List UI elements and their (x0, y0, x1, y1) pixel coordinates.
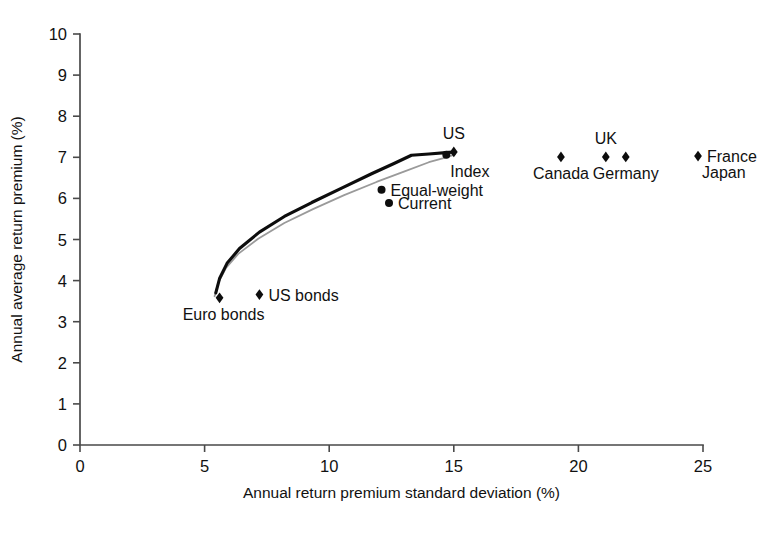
x-tick-label: 5 (200, 457, 209, 475)
data-point-marker-diamond (557, 151, 565, 162)
chart-figure: 0123456789100510152025Annual return prem… (0, 0, 780, 536)
y-tick-label: 6 (58, 189, 67, 207)
x-tick-label: 20 (569, 457, 587, 475)
y-tick-label: 5 (58, 231, 67, 249)
y-tick-label: 4 (58, 272, 67, 290)
x-tick-label: 0 (75, 457, 84, 475)
x-axis-title: Annual return premium standard deviation… (243, 484, 560, 501)
data-point-label: France (707, 148, 757, 165)
data-point-label: Euro bonds (183, 306, 265, 323)
data-point-marker-diamond (694, 151, 702, 162)
y-tick-label: 9 (58, 66, 67, 84)
data-point-marker-dot (385, 199, 393, 207)
data-point-label: UK (595, 130, 618, 147)
data-point-marker-diamond (256, 289, 264, 300)
y-tick-label: 10 (49, 25, 67, 43)
frontier-line-upper (216, 152, 455, 293)
data-point-label: US bonds (268, 287, 338, 304)
data-point-marker-dot (442, 151, 450, 159)
y-tick-label: 2 (58, 354, 67, 372)
scatter-plot: 0123456789100510152025Annual return prem… (0, 0, 780, 536)
y-tick-label: 1 (58, 395, 67, 413)
x-tick-label: 10 (320, 457, 338, 475)
x-tick-label: 15 (445, 457, 463, 475)
frontier-line-lower (215, 154, 455, 296)
data-point-marker-dot (378, 186, 386, 194)
y-tick-label: 8 (58, 107, 67, 125)
y-tick-label: 7 (58, 148, 67, 166)
y-tick-label: 0 (58, 436, 67, 454)
data-point-label: Japan (702, 164, 746, 181)
data-point-marker-diamond (602, 151, 610, 162)
data-point-label: Index (450, 163, 489, 180)
data-point-marker-diamond (622, 151, 630, 162)
data-point-label: Canada (533, 165, 589, 182)
y-axis-title: Annual average return premium (%) (8, 116, 25, 362)
data-point-label: Current (398, 195, 452, 212)
x-tick-label: 25 (694, 457, 712, 475)
data-point-label: Germany (593, 165, 659, 182)
data-point-label: US (443, 125, 465, 142)
y-tick-label: 3 (58, 313, 67, 331)
plot-axes (80, 34, 703, 445)
